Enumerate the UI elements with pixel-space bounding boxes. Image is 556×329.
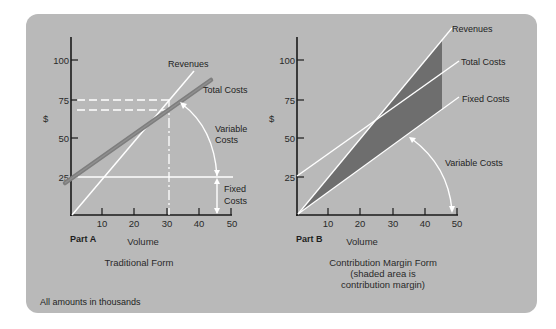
part-b-xtick-50: 50 [452,218,463,229]
part-b-ytick-25: 25 [284,172,295,183]
part-b-variable-cost-arc [412,139,452,210]
part-a-variable-label: Variable [215,124,247,134]
part-a-xtick-20: 20 [129,218,140,229]
part-a-label: Part A [70,234,97,244]
footnote: All amounts in thousands [40,297,141,307]
part-a-ytick-100: 100 [53,55,69,66]
part-a-xtick-50: 50 [227,218,238,229]
part-b-revenues-label: Revenues [452,24,493,34]
part-b-chart: 100 75 50 25 10 20 30 40 50 Revenues Tot… [269,24,510,290]
part-a-xtick-40: 40 [194,218,205,229]
part-a-ytick-50: 50 [58,133,69,144]
part-a-chart: 100 75 50 25 10 20 30 40 50 [43,37,248,268]
part-b-caption-line-3: contribution margin) [341,279,425,290]
part-a-total-costs-label: Total Costs [203,85,248,95]
part-b-x-label: Volume [346,236,378,247]
part-b-total-costs-label: Total Costs [461,57,506,67]
part-b-ytick-100: 100 [279,55,295,66]
part-a-fixed-label: Fixed [224,184,246,194]
part-a-fixed-costs-label: Costs [224,196,248,206]
part-b-xtick-40: 40 [420,218,431,229]
part-a-xtick-30: 30 [162,218,173,229]
part-a-revenues-label: Revenues [168,59,209,69]
part-b-fixed-cost-line [298,97,459,214]
part-b-xtick-30: 30 [388,218,399,229]
part-a-y-label: $ [43,113,49,124]
breakeven-charts: 100 75 50 25 10 20 30 40 50 [0,0,556,329]
part-b-caption-line-2: (shaded area is [350,268,416,279]
part-b-fixed-costs-label: Fixed Costs [462,94,510,104]
part-b-xtick-20: 20 [355,218,366,229]
part-b-variable-costs-label: Variable Costs [445,158,503,168]
part-a-x-label: Volume [127,236,159,247]
part-a-ytick-75: 75 [58,95,69,106]
part-b-y-label: $ [269,113,275,124]
part-b-label: Part B [296,234,323,244]
part-a-xtick-10: 10 [97,218,108,229]
part-a-variable-cost-arc [182,104,217,176]
part-b-caption: Contribution Margin Form [329,257,437,268]
part-a-revenue-line [72,71,194,215]
part-a-costs-label: Costs [215,135,239,145]
part-b-ytick-50: 50 [284,133,295,144]
part-b-total-cost-line [297,61,459,176]
part-a-caption: Traditional Form [105,257,174,268]
part-b-xtick-10: 10 [323,218,334,229]
part-b-ytick-75: 75 [284,95,295,106]
